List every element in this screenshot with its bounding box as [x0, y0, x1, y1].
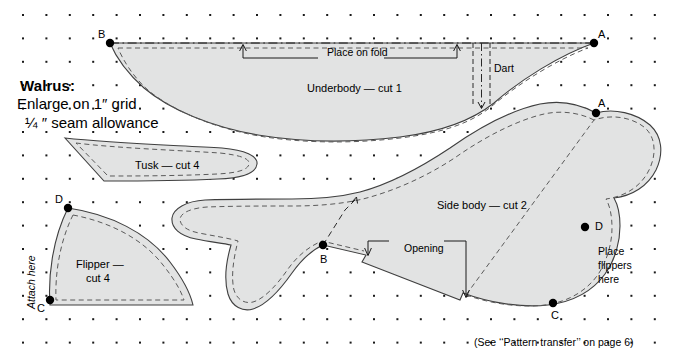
grid-dot [584, 295, 586, 297]
grid-dot [69, 14, 71, 16]
match-point-dot-b-underbody [106, 39, 114, 47]
grid-dot [303, 271, 305, 273]
grid-dot [303, 295, 305, 297]
grid-dot [92, 201, 94, 203]
grid-dot [279, 295, 281, 297]
grid-dot [326, 318, 328, 320]
grid-dot [513, 318, 515, 320]
grid-dot [162, 201, 164, 203]
grid-dot [69, 318, 71, 320]
grid-dot [443, 131, 445, 133]
grid-dot [162, 131, 164, 133]
grid-dot [139, 108, 141, 110]
grid-dot [607, 108, 609, 110]
match-point-label-d-flipper: D [55, 193, 63, 205]
grid-dot [490, 37, 492, 39]
grid-dot [350, 178, 352, 180]
grid-dot [537, 14, 539, 16]
grid-dot [630, 61, 632, 63]
grid-dot [22, 271, 24, 273]
grid-dot [279, 342, 281, 344]
grid-dot [326, 248, 328, 250]
grid-dot [45, 14, 47, 16]
grid-dot [69, 61, 71, 63]
grid-dot [209, 271, 211, 273]
grid-dot [560, 14, 562, 16]
grid-dot [303, 342, 305, 344]
grid-dot [69, 154, 71, 156]
label-place-flippers-3: here [598, 273, 619, 285]
grid-dot [139, 37, 141, 39]
grid-dot [45, 248, 47, 250]
grid-dot [443, 37, 445, 39]
label-side-body: Side body — cut 2 [437, 199, 527, 211]
label-underbody: Underbody — cut 1 [307, 82, 402, 94]
grid-dot [209, 295, 211, 297]
grid-dot [186, 37, 188, 39]
grid-dot [256, 342, 258, 344]
label-dart: Dart [494, 62, 514, 74]
grid-dot [467, 318, 469, 320]
grid-dot [116, 84, 118, 86]
grid-dot [607, 37, 609, 39]
piece-flipper[interactable] [50, 208, 193, 305]
grid-dot [350, 37, 352, 39]
grid-dot [467, 37, 469, 39]
grid-dot [256, 318, 258, 320]
instructions-title: Walrus: [20, 77, 75, 94]
grid-dot [373, 14, 375, 16]
grid-dot [139, 342, 141, 344]
grid-dot [654, 225, 656, 227]
grid-dot [396, 154, 398, 156]
grid-dot [303, 37, 305, 39]
grid-dot [45, 178, 47, 180]
grid-dot [630, 248, 632, 250]
grid-dot [45, 225, 47, 227]
match-point-label-a-sidebody: A [598, 97, 605, 109]
match-point-label-d-sidebody: D [595, 220, 603, 232]
match-point-dot-d-flipper [64, 204, 72, 212]
grid-dot [396, 295, 398, 297]
grid-dot [420, 318, 422, 320]
match-point-label-c-sidebody: C [551, 309, 559, 321]
grid-dot [45, 342, 47, 344]
grid-dot [186, 271, 188, 273]
grid-dot [584, 61, 586, 63]
grid-dot [490, 108, 492, 110]
grid-dot [22, 318, 24, 320]
grid-dot [420, 154, 422, 156]
label-place-on-fold: Place on fold [327, 46, 388, 58]
grid-dot [22, 295, 24, 297]
grid-dot [303, 154, 305, 156]
grid-dot [607, 14, 609, 16]
label-flipper-line1: Flipper — [76, 258, 124, 270]
grid-dot [373, 178, 375, 180]
grid-dot [490, 14, 492, 16]
grid-dot [45, 271, 47, 273]
grid-dot [607, 84, 609, 86]
grid-dot [326, 37, 328, 39]
grid-dot [513, 37, 515, 39]
grid-dot [630, 295, 632, 297]
grid-dot [326, 342, 328, 344]
grid-dot [233, 318, 235, 320]
grid-dot [630, 225, 632, 227]
label-place-flippers-2: flippers [598, 259, 632, 271]
grid-dot [373, 318, 375, 320]
grid-dot [607, 295, 609, 297]
grid-dot [326, 154, 328, 156]
caption-pattern-transfer: (See ‘‘Pattern transfer’’ on page 6) [474, 336, 634, 348]
grid-dot [560, 318, 562, 320]
grid-dot [186, 131, 188, 133]
grid-dot [279, 154, 281, 156]
grid-dot [396, 318, 398, 320]
grid-dot [45, 295, 47, 297]
grid-dot [654, 84, 656, 86]
grid-dot [162, 14, 164, 16]
grid-dot [654, 342, 656, 344]
grid-dot [22, 342, 24, 344]
grid-dot [116, 61, 118, 63]
grid-dot [560, 84, 562, 86]
grid-dot [22, 61, 24, 63]
grid-dot [45, 131, 47, 133]
